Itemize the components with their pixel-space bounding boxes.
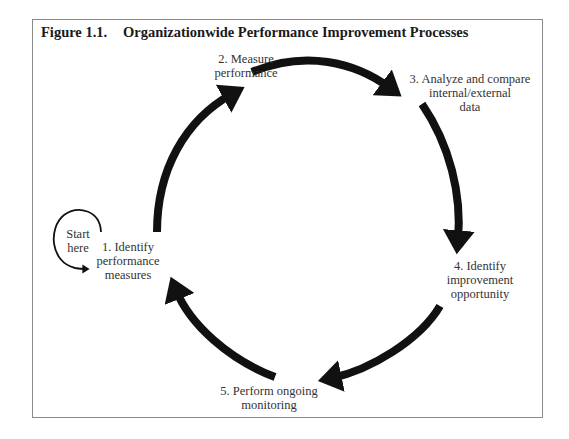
step-2-label: 2. Measure performance xyxy=(206,52,286,80)
step-line: opportunity xyxy=(440,287,520,301)
arrow-1-to-2 xyxy=(157,94,232,232)
step-line: monitoring xyxy=(212,398,326,412)
arrow-3-to-4 xyxy=(422,104,459,240)
step-line: data xyxy=(404,100,536,114)
arrow-5-to-1 xyxy=(176,290,275,377)
step-line: performance xyxy=(206,66,286,80)
step-line: internal/external xyxy=(404,86,536,100)
step-1-label: 1. Identify performance measures xyxy=(92,240,164,282)
step-line: performance xyxy=(92,254,164,268)
start-label-line: here xyxy=(60,241,96,255)
arrow-4-to-5 xyxy=(332,306,440,378)
step-line: 5. Perform ongoing xyxy=(212,384,326,398)
step-5-label: 5. Perform ongoing monitoring xyxy=(212,384,326,412)
step-3-label: 3. Analyze and compare internal/external… xyxy=(404,72,536,114)
step-line: measures xyxy=(92,268,164,282)
start-label-line: Start xyxy=(60,227,96,241)
step-4-label: 4. Identify improvement opportunity xyxy=(440,259,520,301)
step-line: 3. Analyze and compare xyxy=(404,72,536,86)
step-line: 1. Identify xyxy=(92,240,164,254)
step-line: 2. Measure xyxy=(206,52,286,66)
start-here-label: Start here xyxy=(60,227,96,255)
step-line: improvement xyxy=(440,273,520,287)
step-line: 4. Identify xyxy=(440,259,520,273)
